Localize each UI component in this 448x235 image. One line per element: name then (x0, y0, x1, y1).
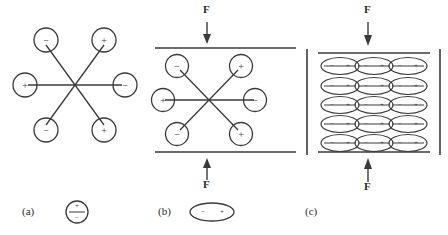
charge-sign: + (160, 95, 166, 106)
dipole-cell: −+ (355, 116, 393, 133)
force-label-bottom: F (364, 180, 371, 192)
dipole-right-sign: + (380, 139, 384, 147)
dipole-left-sign: − (364, 101, 368, 109)
force-label-top: F (203, 3, 210, 15)
dipole-cell: −+ (321, 78, 359, 95)
dipole-left-sign: − (330, 82, 334, 90)
dipole-right-sign: + (414, 120, 418, 128)
force-arrow-bottom (364, 158, 372, 182)
charge-node-bottom-right: + (92, 118, 116, 142)
dipole-alignment-figure: − + + − − + (0, 0, 448, 235)
charge-sign: − (174, 61, 180, 72)
panel-a-graphic: − + + − − + (0, 0, 150, 235)
legend-bottom-sign: − (75, 214, 79, 222)
dipole-right-sign: + (380, 82, 384, 90)
dipole-left-sign: − (364, 139, 368, 147)
charge-node-bottom-left: − (166, 123, 189, 146)
dipole-cell: −+ (355, 97, 393, 114)
dipole-right-sign: + (346, 62, 350, 70)
panel-a-legend-symbol: + − (66, 201, 88, 223)
charge-sign: − (43, 125, 49, 136)
dipole-left-sign: − (398, 62, 402, 70)
panel-b-legend-symbol: − + (190, 203, 234, 221)
dipole-right-sign: + (380, 120, 384, 128)
charge-node-top-right: + (230, 55, 253, 78)
charge-node-top-left: − (34, 28, 58, 52)
dipole-right-sign: + (346, 82, 350, 90)
dipole-cell: −+ (389, 78, 427, 95)
dipole-cell: −+ (321, 97, 359, 114)
dipole-left-sign: − (398, 120, 402, 128)
charge-sign: + (101, 35, 107, 46)
dipole-right-sign: + (346, 101, 350, 109)
dipole-cell: −+ (389, 135, 427, 152)
dipole-bars (28, 45, 122, 125)
charge-sign: − (252, 95, 258, 106)
dipole-right-sign: + (414, 62, 418, 70)
charge-sign: − (43, 35, 49, 46)
dipole-left-sign: − (398, 139, 402, 147)
dipole-cell: −+ (389, 58, 427, 75)
dipole-cell: −+ (321, 135, 359, 152)
dipole-bars (165, 70, 254, 130)
dipole-cell: −+ (389, 116, 427, 133)
dipole-cell: −+ (321, 116, 359, 133)
dipole-left-sign: − (330, 101, 334, 109)
dipole-right-sign: + (380, 101, 384, 109)
panel-c: −+−+−+−+−+−+−+−+−+−+−+−+−+−+−+ F F (c) (300, 0, 448, 235)
dipole-cell: −+ (389, 97, 427, 114)
dipole-right-sign: + (346, 139, 350, 147)
force-arrow-bottom (203, 158, 211, 180)
dipole-left-sign: − (330, 139, 334, 147)
dipole-right-sign: + (414, 101, 418, 109)
dipole-right-sign: + (346, 120, 350, 128)
dipole-left-sign: − (364, 120, 368, 128)
panel-c-graphic: −+−+−+−+−+−+−+−+−+−+−+−+−+−+−+ (300, 0, 448, 235)
charge-node-top-right: + (92, 28, 116, 52)
panel-a: − + + − − + (0, 0, 150, 235)
panel-b-graphic: − + + − − + (150, 0, 300, 235)
dipole-left-sign: − (398, 82, 402, 90)
force-label-bottom: F (203, 178, 210, 190)
dipole-left-sign: − (364, 82, 368, 90)
dipole-cell: −+ (355, 135, 393, 152)
dipole-left-sign: − (364, 62, 368, 70)
charge-sign: − (174, 129, 180, 140)
dipole-left-sign: − (330, 62, 334, 70)
dipole-cell: −+ (321, 58, 359, 75)
dipole-cell: −+ (355, 58, 393, 75)
charge-sign: + (238, 61, 244, 72)
legend-right-sign: + (220, 208, 224, 216)
panel-label-b: (b) (158, 205, 171, 217)
panel-label-c: (c) (305, 205, 317, 217)
charge-sign: + (238, 129, 244, 140)
legend-top-sign: + (75, 202, 79, 210)
charge-sign: − (122, 80, 128, 91)
panel-label-a: (a) (22, 205, 34, 217)
dipole-right-sign: + (414, 139, 418, 147)
dipole-right-sign: + (380, 62, 384, 70)
dipole-left-sign: − (330, 120, 334, 128)
charge-sign: + (22, 80, 28, 91)
charge-node-top-left: − (166, 55, 189, 78)
dipole-right-sign: + (414, 82, 418, 90)
charge-sign: + (101, 125, 107, 136)
panel-b: − + + − − + (150, 0, 300, 235)
legend-left-sign: − (201, 208, 205, 216)
force-arrow-top (364, 22, 372, 46)
charge-node-bottom-right: + (230, 123, 253, 146)
force-arrow-top (203, 22, 211, 44)
dipole-left-sign: − (398, 101, 402, 109)
dipole-grid: −+−+−+−+−+−+−+−+−+−+−+−+−+−+−+ (321, 58, 427, 152)
charge-node-bottom-left: − (34, 118, 58, 142)
force-label-top: F (364, 3, 371, 15)
dipole-cell: −+ (355, 78, 393, 95)
